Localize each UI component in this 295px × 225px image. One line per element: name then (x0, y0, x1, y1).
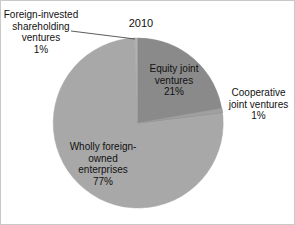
slice-label-wholly-foreign-owned-enterprises: Wholly foreign- owned enterprises 77% (57, 141, 149, 187)
chart-title: 2010 (113, 17, 169, 30)
slice-label-foreign-invested-shareholding-ventures: Foreign-invested shareholding ventures 1… (1, 9, 81, 55)
slice-label-equity-joint-ventures: Equity joint ventures 21% (137, 63, 211, 98)
pie-chart-figure: 2010 Foreign-invested shareholding ventu… (0, 0, 295, 225)
slice-label-cooperative-joint-ventures: Cooperative joint ventures 1% (221, 87, 295, 122)
